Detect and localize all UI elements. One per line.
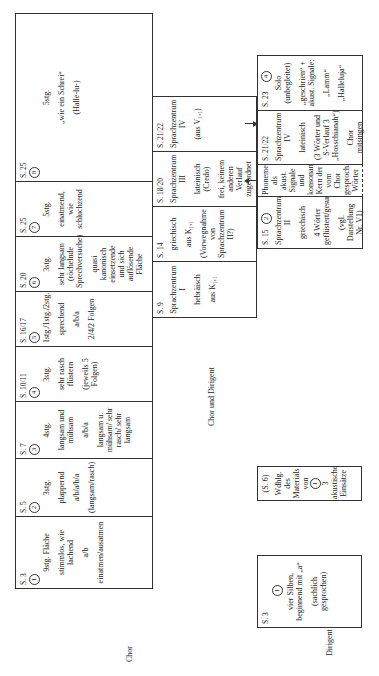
chor-cell-4: S. 10/11 4 3stg.sehr rasch flüstern(jewe… [16,346,152,401]
number-circle-icon: 6 [29,277,40,288]
chor-row: S. 3 1 9stg. Flächestimmlos, wie lachend… [15,13,153,589]
chor-cell-7: S. 25 7 5stg.einatmend, wie schluchzend [16,181,152,236]
row-label-dirigent: Dirigent [325,629,334,656]
sprachzentrum-ii-box: S. 15 2 Sprachzentrum IIgriechisch4 Wört… [257,196,363,249]
number-circle-icon: 2 [29,502,40,513]
dirigent-box: S. 3 1 vier Silben, beginnend mit „a“(sa… [257,555,362,628]
chor-cell-1: S. 3 1 9stg. Flächestimmlos, wie lachend… [16,516,152,588]
row-label-chor-und-dirigent: Chor und Dirigent [207,367,216,426]
sprach-cell-4: S. 21/22 Sprachzentrum IV(aus V₁,₁) [153,97,256,151]
chor-cell-3: S. 7 3 4stg.langsam und mühsama/b/alangs… [16,401,152,458]
sprachzentrum-iv-box: S. 21/22 Sprachzentrum IVlateinisch(3 Wö… [257,110,363,165]
dashed-line [362,164,363,197]
chor-cell-8: S. 25 8 5stg.„wie ein Schrei“(Halle-lu-) [16,14,152,181]
number-circle-icon: 2 [261,213,272,224]
number-circle-icon: 1 [310,478,321,489]
sprach-cell-3: S. 18/20 Sprachzentrum IIIlateinisch (Cr… [153,151,256,206]
number-circle-icon: 1 [272,585,283,596]
phoneme-box: Phoneme als akust. Signale und konsonant… [257,164,363,197]
sprachzentrum-row: S. 9 Sprachzentrum Ihebräischaus K₁,₁ S.… [152,96,257,318]
chor-cell-5: S. 16/17 5 1stg./1stg./2stg.sprechenda/b… [16,291,152,346]
number-circle-icon: 8 [29,167,40,178]
solo-box: S. 23 4 Solo (unbegleitet)„geschrien“ + … [257,55,363,111]
number-circle-icon: 5 [29,332,40,343]
number-circle-icon: 3 [29,444,40,455]
arrow-icon [245,123,257,124]
chor-cell-6: S. 20 6 3stg.sehr langsam (röchelnde Spr… [16,236,152,291]
chor-cell-2: S. 5 2 3stg.plappernda/b/a/b/a(langsam/r… [16,458,152,516]
number-circle-icon: 1 [29,574,40,585]
diagram-canvas: Chor Chor und Dirigent Dirigent S. 3 1 9… [0,0,379,676]
number-circle-icon: 4 [29,387,40,398]
arrow-icon [245,180,257,181]
sprach-cell-1: S. 9 Sprachzentrum Ihebräischaus K₁,₁ [153,261,256,317]
row-label-chor: Chor [125,646,134,662]
s6-box: (S. 6) Wdhlg. des Materials von 1 3 akus… [257,466,362,501]
number-circle-icon: 4 [261,71,272,82]
sprach-cell-2: S. 14 griechischaus K₁,₁(Vorwegnahme von… [153,206,256,261]
number-circle-icon: 7 [29,222,40,233]
